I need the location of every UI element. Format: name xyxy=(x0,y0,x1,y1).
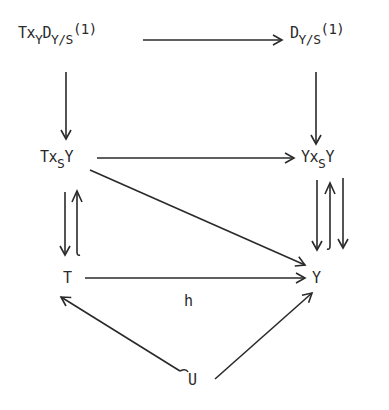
node-superscript: (1) xyxy=(73,21,97,37)
node-text: Y xyxy=(312,269,321,287)
node-text: Y xyxy=(325,148,334,166)
node-subscript: S xyxy=(57,156,64,171)
node-text: Yx xyxy=(301,148,318,166)
arrow-left-up-section xyxy=(77,193,80,255)
arrow-U-to-T xyxy=(61,297,180,371)
commutative-diagram: TxYDY/S(1) DY/S(1) TxSY YxSY T Y h U xyxy=(0,0,389,410)
node-subscript: S xyxy=(318,156,325,171)
node-bottom-right: Y xyxy=(312,271,321,286)
node-top-right: DY/S(1) xyxy=(290,26,344,41)
node-text: U xyxy=(188,371,197,389)
node-subscript: Y/S xyxy=(51,32,73,47)
node-text: T xyxy=(63,269,72,287)
node-text: Y xyxy=(64,148,73,166)
node-top-left: TxYDY/S(1) xyxy=(18,26,97,41)
arrow-right-up-diagonal xyxy=(327,184,330,249)
node-text: D xyxy=(290,24,299,42)
node-subscript: Y xyxy=(35,32,42,47)
node-mid-left: TxSY xyxy=(40,150,73,165)
node-text: D xyxy=(42,24,51,42)
node-text: Tx xyxy=(40,148,57,166)
arrow-diagonal xyxy=(90,170,305,265)
node-subscript: Y/S xyxy=(299,32,321,47)
edge-label-h: h xyxy=(184,292,193,310)
node-bottom-left: T xyxy=(63,271,72,286)
node-mid-right: YxSY xyxy=(301,150,334,165)
node-text: Tx xyxy=(18,24,35,42)
node-bottom-center: U xyxy=(188,373,197,388)
diagram-arrows xyxy=(0,0,389,410)
arrow-U-to-Y xyxy=(215,293,312,379)
node-superscript: (1) xyxy=(321,21,345,37)
